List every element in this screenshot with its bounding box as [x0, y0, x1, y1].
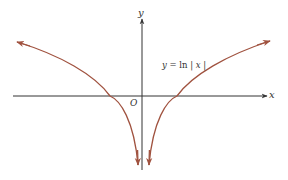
graph-canvas	[0, 0, 288, 180]
right-branch-arrow-up	[257, 41, 270, 45]
left-branch-arrow-up	[17, 42, 30, 46]
y-axis-label: y	[138, 8, 144, 18]
origin-label: O	[130, 99, 137, 108]
left-branch-curve	[17, 42, 138, 165]
function-equation-label: y = ln | x |	[162, 61, 206, 70]
equation-end: |	[201, 60, 207, 70]
equation-middle: = ln |	[167, 60, 196, 70]
x-axis-label: x	[269, 90, 275, 100]
